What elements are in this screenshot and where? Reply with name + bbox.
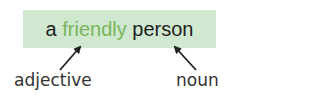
noun-arrow-icon (175, 47, 196, 70)
noun-label: noun (176, 70, 219, 90)
adjective-label: adjective (14, 70, 92, 90)
adjective-arrow-icon (60, 47, 80, 70)
